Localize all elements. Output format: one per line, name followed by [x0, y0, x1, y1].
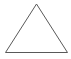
figure-svg: [0, 0, 71, 59]
canvas-background: [0, 0, 71, 59]
geometric-figure-canvas: [0, 0, 71, 59]
